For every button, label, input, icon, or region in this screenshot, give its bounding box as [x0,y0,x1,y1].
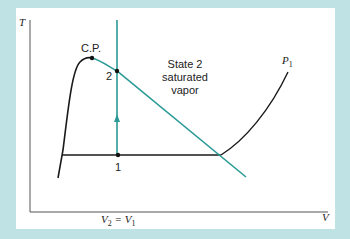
state2-number-label: 2 [106,71,112,82]
isobar-p1-curve [221,72,288,155]
isobar-p1-label: P1 [282,55,293,69]
saturated-liquid-curve [58,58,92,178]
state2-dot [115,69,119,73]
volume-equality-label: V2 = V1 [101,214,135,228]
volume-v1-sub: 1 [131,219,135,228]
state2-line3: vapor [150,84,220,97]
volume-eq-mid: = V [112,213,132,225]
volume-v2: V [101,213,108,225]
y-axis-label: T [19,17,25,28]
critical-point-label: C.P. [81,43,101,54]
state1-dot [116,153,120,157]
critical-point-dot [90,56,94,60]
x-axis-label: V [322,212,329,223]
isobar-p1-sub: 1 [289,60,293,69]
tv-diagram-svg [0,0,350,239]
isobar-p1-main: P [282,54,289,66]
process-arrow-icon [114,114,120,122]
state1-number-label: 1 [115,162,121,173]
state2-description: State 2 saturated vapor [150,58,220,97]
state2-line2: saturated [150,71,220,84]
state2-line1: State 2 [150,58,220,71]
